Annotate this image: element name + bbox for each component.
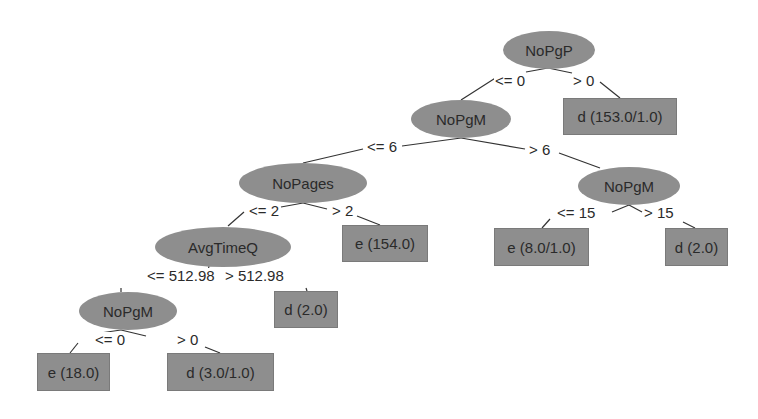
- node-label: NoPgM: [604, 178, 654, 195]
- edge-nopgmr-gt15: [629, 205, 642, 212]
- node-label: d (153.0/1.0): [577, 108, 662, 125]
- edge-label-nopgmb-le0: <= 0: [94, 332, 126, 348]
- edge-label-root-le0: <= 0: [494, 73, 526, 89]
- node-label: e (18.0): [48, 364, 100, 381]
- node-label: d (2.0): [675, 239, 718, 256]
- edge-label-nopgm-gt6: > 6: [528, 142, 551, 158]
- node-label: e (154.0): [355, 235, 415, 252]
- node-label: d (2.0): [284, 301, 327, 318]
- edge-label-root-gt0: > 0: [572, 73, 595, 89]
- split-node-nopgm-right: NoPgM: [578, 167, 680, 205]
- decision-tree-canvas: NoPgP NoPgM NoPages NoPgM AvgTimeQ NoPgM…: [0, 0, 758, 419]
- node-label: NoPages: [272, 175, 334, 192]
- split-node-nopgm: NoPgM: [411, 100, 511, 138]
- edge-nopgmr-le15: [612, 205, 629, 212]
- edge-nopgm-le6: [402, 138, 461, 146]
- edge-label-avgtimeq-le: <= 512.98: [146, 268, 216, 284]
- edge-label-nopgmb-gt0: > 0: [176, 332, 199, 348]
- edge-label-nopgm-le6: <= 6: [366, 139, 398, 155]
- split-node-avgtimeq: AvgTimeQ: [155, 227, 291, 267]
- edge-label-nopages-le2: <= 2: [248, 203, 280, 219]
- edge-nopgm-gt6: [461, 138, 525, 149]
- leaf-node-d-3: d (3.0/1.0): [167, 353, 274, 391]
- node-label: NoPgP: [525, 42, 573, 59]
- split-node-nopgm-bottom: NoPgM: [79, 292, 177, 330]
- leaf-node-d-2-mid: d (2.0): [274, 291, 338, 328]
- edge-nopages-le2: [281, 203, 303, 207]
- node-label: AvgTimeQ: [188, 239, 258, 256]
- edge-label-avgtimeq-gt: > 512.98: [224, 268, 285, 284]
- node-label: NoPgM: [436, 111, 486, 128]
- split-node-nopgp: NoPgP: [503, 31, 595, 69]
- edge-label-nopgmr-le15: <= 15: [556, 205, 596, 221]
- leaf-node-e-154: e (154.0): [342, 225, 428, 262]
- split-node-nopages: NoPages: [239, 163, 367, 203]
- node-label: d (3.0/1.0): [186, 364, 254, 381]
- edge-label-nopgmr-gt15: > 15: [643, 205, 675, 221]
- node-label: e (8.0/1.0): [507, 239, 575, 256]
- edge-nopages-gt2: [303, 203, 327, 209]
- node-label: NoPgM: [103, 303, 153, 320]
- leaf-node-e-18: e (18.0): [37, 353, 110, 391]
- leaf-node-d-2-right: d (2.0): [665, 228, 728, 266]
- leaf-node-e-8: e (8.0/1.0): [494, 228, 589, 266]
- edge-label-nopages-gt2: > 2: [331, 203, 354, 219]
- leaf-node-d-153: d (153.0/1.0): [563, 98, 677, 135]
